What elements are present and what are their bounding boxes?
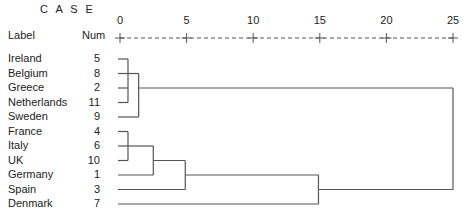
dendrogram-branches [118, 59, 453, 204]
dendrogram-plot [0, 0, 468, 216]
x-axis [115, 33, 458, 43]
